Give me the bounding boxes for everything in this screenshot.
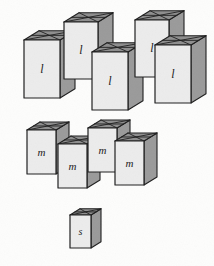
box-side-face	[191, 36, 206, 103]
boxes-canvas: lllllmmmms	[0, 0, 214, 266]
box-label: m	[69, 160, 77, 172]
box-label: m	[99, 144, 107, 156]
box-side-face	[144, 133, 157, 185]
box-label: m	[38, 146, 46, 158]
box: s	[70, 209, 101, 248]
box-label: m	[126, 157, 134, 169]
box-illustration-figure: lllllmmmms	[0, 0, 214, 266]
box: l	[155, 36, 206, 103]
box-label: s	[79, 226, 83, 237]
box: m	[115, 133, 157, 185]
